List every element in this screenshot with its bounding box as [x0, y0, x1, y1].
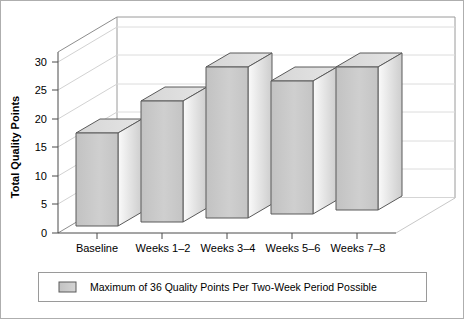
bar-chart-3d: 30 25 20 15 10 5 0 Total Quality Points	[0, 0, 464, 319]
x-tick-label: Weeks 1–2	[136, 242, 191, 254]
x-tick-label: Baseline	[76, 242, 118, 254]
x-tick-label: Weeks 3–4	[201, 242, 256, 254]
y-tick-label: 0	[41, 227, 47, 239]
bar-baseline[interactable]	[76, 119, 142, 226]
bar-weeks-5-6[interactable]	[271, 67, 337, 214]
bar-weeks-7-8[interactable]	[336, 53, 402, 210]
legend-swatch-icon	[59, 282, 76, 292]
x-tick-label: Weeks 5–6	[266, 242, 321, 254]
y-axis-title: Total Quality Points	[9, 96, 21, 198]
y-tick-label: 15	[35, 141, 47, 153]
bar-weeks-3-4[interactable]	[206, 53, 272, 218]
legend-label: Maximum of 36 Quality Points Per Two-Wee…	[90, 281, 377, 293]
x-tick-label: Weeks 7–8	[331, 242, 386, 254]
y-tick-label: 30	[35, 56, 47, 68]
y-tick-label: 20	[35, 113, 47, 125]
chart-container: 30 25 20 15 10 5 0 Total Quality Points	[0, 0, 464, 319]
y-tick-label: 10	[35, 170, 47, 182]
y-tick-label: 5	[41, 198, 47, 210]
y-tick-label: 25	[35, 84, 47, 96]
legend: Maximum of 36 Quality Points Per Two-Wee…	[39, 273, 427, 302]
bar-weeks-1-2[interactable]	[141, 87, 207, 222]
